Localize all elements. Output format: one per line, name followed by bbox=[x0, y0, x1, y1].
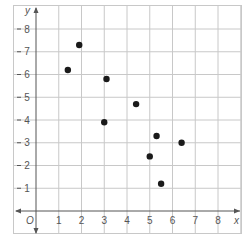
y-tick-label: 3 bbox=[24, 137, 30, 148]
x-axis-label: x bbox=[233, 215, 240, 226]
data-point bbox=[76, 42, 82, 48]
data-point bbox=[153, 133, 159, 139]
x-tick-label: 2 bbox=[79, 215, 85, 226]
y-tick-label: 4 bbox=[24, 115, 30, 126]
x-tick-label: 7 bbox=[192, 215, 198, 226]
x-tick-label: 5 bbox=[147, 215, 153, 226]
y-tick-label: 8 bbox=[24, 24, 30, 35]
x-tick-label: 1 bbox=[56, 215, 62, 226]
y-tick-label: 2 bbox=[24, 160, 30, 171]
y-tick-label: 6 bbox=[24, 69, 30, 80]
data-point bbox=[147, 153, 153, 159]
data-point bbox=[133, 101, 139, 107]
origin-label: O bbox=[26, 215, 34, 226]
x-arrow-right-icon bbox=[234, 209, 240, 214]
data-point bbox=[158, 181, 164, 187]
y-tick-label: 1 bbox=[24, 183, 30, 194]
y-arrow-up-icon bbox=[34, 7, 39, 13]
y-axis-label: y bbox=[24, 5, 31, 16]
grid-lines bbox=[14, 6, 242, 234]
x-tick-label: 3 bbox=[101, 215, 107, 226]
x-tick-label: 8 bbox=[215, 215, 221, 226]
scatter-plot: 1234567812345678 x y O bbox=[0, 0, 242, 235]
data-point bbox=[178, 140, 184, 146]
tick-labels: 1234567812345678 bbox=[17, 24, 221, 227]
data-point bbox=[101, 119, 107, 125]
y-tick-label: 5 bbox=[24, 92, 30, 103]
x-tick-label: 6 bbox=[170, 215, 176, 226]
data-point bbox=[103, 76, 109, 82]
x-arrow-left-icon bbox=[15, 209, 21, 214]
x-tick-label: 4 bbox=[124, 215, 130, 226]
y-tick-label: 7 bbox=[24, 46, 30, 57]
data-point bbox=[65, 67, 71, 73]
